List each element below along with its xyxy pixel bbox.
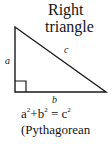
formula-c-exponent: 2 [67, 106, 71, 114]
formula-equals: = [48, 106, 62, 121]
triangle-shape [15, 27, 106, 92]
side-label-a: a [5, 56, 10, 66]
caption-pythagorean: (Pythagorean [21, 123, 90, 137]
formula-plus: + [30, 106, 37, 121]
right-angle-marker [15, 81, 26, 92]
pythagorean-formula: a2+b2 = c2 [21, 107, 71, 121]
side-label-b: b [52, 95, 57, 105]
side-label-c: c [64, 45, 68, 55]
